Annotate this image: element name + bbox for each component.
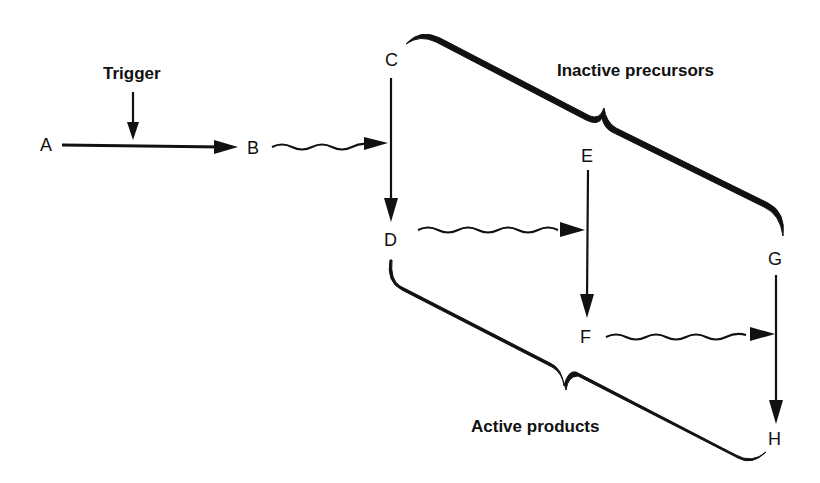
arrow-a-b (62, 140, 238, 154)
node-b: B (247, 138, 259, 158)
node-h: H (768, 429, 781, 449)
wavy-arrow-d (418, 222, 585, 237)
node-a: A (40, 135, 52, 155)
inactive-precursors-label: Inactive precursors (557, 61, 714, 80)
arrow-e-f (580, 170, 594, 318)
node-g: G (768, 249, 782, 269)
node-f: F (580, 327, 591, 347)
node-e: E (581, 146, 593, 166)
node-c: C (385, 50, 398, 70)
wavy-arrow-f (606, 327, 775, 341)
arrow-g-h (769, 275, 783, 424)
trigger-label: Trigger (103, 64, 161, 83)
node-d: D (384, 230, 397, 250)
wavy-arrow-b (272, 137, 388, 150)
cascade-diagram: Trigger A B C D E F G H (0, 0, 820, 483)
trigger-arrow (127, 92, 139, 140)
active-products-label: Active products (471, 417, 599, 436)
arrow-c-d (384, 78, 398, 222)
